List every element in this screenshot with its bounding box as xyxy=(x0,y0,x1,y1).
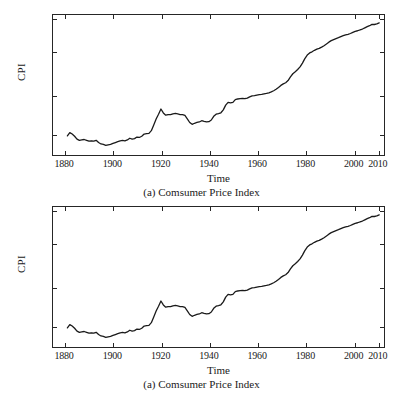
x-axis-title-bottom: Time xyxy=(52,364,385,376)
y-tick-mark xyxy=(53,211,57,212)
plot-area-bottom: 1030100250 xyxy=(52,206,385,348)
cpi-line-series-bottom xyxy=(53,207,384,347)
x-tick-label: 1920 xyxy=(151,159,170,169)
x-tick-mark xyxy=(210,207,211,211)
x-tick-mark xyxy=(258,343,259,347)
x-tick-mark xyxy=(65,15,66,19)
x-tick-label: 1980 xyxy=(296,351,315,361)
x-tick-mark xyxy=(113,343,114,347)
x-tick-label: 1940 xyxy=(199,351,218,361)
x-tick-mark xyxy=(355,343,356,347)
y-tick-mark xyxy=(380,211,384,212)
x-tick-mark xyxy=(162,151,163,155)
x-tick-mark xyxy=(113,207,114,211)
x-tick-mark xyxy=(210,151,211,155)
y-tick-mark xyxy=(380,327,384,328)
x-tick-mark xyxy=(306,151,307,155)
x-tick-mark xyxy=(379,343,380,347)
cpi-line-series-top xyxy=(53,15,384,155)
x-tick-label: 1940 xyxy=(199,159,218,169)
figure-cpi-top: 1030100250 CPI Time (a) Comsumer Price I… xyxy=(0,4,403,200)
y-tick-mark xyxy=(53,96,57,97)
x-tick-label: 2010 xyxy=(368,159,387,169)
x-tick-label: 1900 xyxy=(103,351,122,361)
x-tick-mark xyxy=(65,343,66,347)
figure-caption-bottom: (a) Comsumer Price Index xyxy=(0,378,403,390)
x-tick-label: 1960 xyxy=(247,351,266,361)
x-tick-mark xyxy=(162,207,163,211)
x-tick-label: 2000 xyxy=(344,159,363,169)
x-tick-mark xyxy=(379,151,380,155)
x-tick-mark xyxy=(162,343,163,347)
x-tick-mark xyxy=(65,207,66,211)
x-tick-mark xyxy=(379,207,380,211)
x-tick-label: 1980 xyxy=(296,159,315,169)
x-tick-label: 2010 xyxy=(368,351,387,361)
x-tick-mark xyxy=(210,15,211,19)
y-tick-mark xyxy=(53,135,57,136)
x-tick-mark xyxy=(113,151,114,155)
x-tick-mark xyxy=(379,15,380,19)
x-tick-mark xyxy=(258,207,259,211)
x-tick-mark xyxy=(355,15,356,19)
cut-off-title-fragment: · · xyxy=(0,0,403,1)
y-tick-mark xyxy=(380,19,384,20)
x-tick-label: 1900 xyxy=(103,159,122,169)
plot-area-top: 1030100250 xyxy=(52,14,385,156)
y-tick-mark xyxy=(53,288,57,289)
x-tick-mark xyxy=(210,343,211,347)
x-tick-mark xyxy=(162,15,163,19)
x-tick-mark xyxy=(65,151,66,155)
x-tick-mark xyxy=(258,151,259,155)
x-axis-title-top: Time xyxy=(52,172,385,184)
y-axis-title-bottom: CPI xyxy=(15,255,27,273)
x-tick-mark xyxy=(306,207,307,211)
y-tick-mark xyxy=(380,288,384,289)
y-axis-title-top: CPI xyxy=(15,63,27,81)
y-tick-mark xyxy=(380,135,384,136)
y-tick-mark xyxy=(380,96,384,97)
figure-cpi-bottom: 1030100250 CPI Time (a) Comsumer Price I… xyxy=(0,196,403,395)
x-tick-mark xyxy=(258,15,259,19)
x-tick-label: 1960 xyxy=(247,159,266,169)
x-tick-label: 2000 xyxy=(344,351,363,361)
y-tick-mark xyxy=(53,244,57,245)
x-tick-mark xyxy=(113,15,114,19)
y-tick-mark xyxy=(53,52,57,53)
x-tick-mark xyxy=(306,15,307,19)
y-tick-mark xyxy=(53,19,57,20)
y-tick-mark xyxy=(53,327,57,328)
y-tick-mark xyxy=(380,244,384,245)
x-tick-label: 1920 xyxy=(151,351,170,361)
x-tick-mark xyxy=(306,343,307,347)
x-tick-mark xyxy=(355,207,356,211)
x-tick-mark xyxy=(355,151,356,155)
y-tick-mark xyxy=(380,52,384,53)
x-tick-label: 1880 xyxy=(54,351,73,361)
x-tick-label: 1880 xyxy=(54,159,73,169)
